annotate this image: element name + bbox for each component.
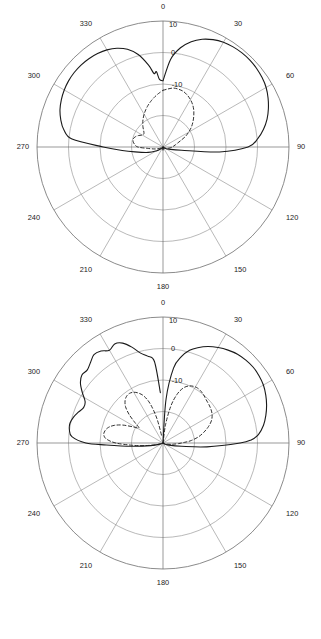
polar-spoke-150: [163, 443, 226, 552]
polar-spoke-150: [163, 147, 226, 256]
angle-label-60: 60: [286, 71, 294, 80]
angle-tick-labels: 0306090120150180210240270300330: [17, 2, 306, 291]
radial-label-10: 10: [169, 316, 177, 325]
polar-plot-a: 0306090120150180210240270300330100-10(a): [0, 0, 321, 300]
angle-label-330: 330: [80, 315, 92, 324]
angle-label-240: 240: [28, 509, 40, 518]
curve-co-polarization: [69, 343, 266, 447]
data-curves: [60, 39, 268, 152]
angle-label-0: 0: [161, 298, 165, 307]
angle-label-150: 150: [234, 561, 246, 570]
angle-label-150: 150: [234, 265, 246, 274]
radial-label--10: -10: [172, 80, 183, 89]
radial-label-0: 0: [171, 344, 175, 353]
polar-spoke-240: [54, 147, 163, 210]
polar-chart-b: 0306090120150180210240270300330100-10(b): [0, 296, 321, 596]
polar-chart-a: 0306090120150180210240270300330100-10(a): [0, 0, 321, 300]
angle-label-30: 30: [234, 19, 242, 28]
angle-label-240: 240: [28, 213, 40, 222]
radial-label-10: 10: [169, 20, 177, 29]
angle-label-30: 30: [234, 315, 242, 324]
angle-label-120: 120: [286, 509, 298, 518]
polar-spoke-210: [100, 443, 163, 552]
angle-label-330: 330: [80, 19, 92, 28]
angle-label-180: 180: [157, 282, 169, 291]
polar-spoke-120: [163, 147, 272, 210]
angle-label-270: 270: [17, 438, 29, 447]
polar-spoke-330: [100, 38, 163, 147]
polar-spoke-210: [100, 147, 163, 256]
polar-spoke-240: [54, 443, 163, 506]
angle-label-180: 180: [157, 578, 169, 587]
polar-radiation-pattern-figure: 0306090120150180210240270300330100-10(a)…: [0, 0, 321, 639]
angle-tick-labels: 0306090120150180210240270300330: [17, 298, 306, 587]
radial-tick-labels: 100-10: [169, 20, 182, 89]
angle-label-90: 90: [297, 142, 305, 151]
polar-spoke-60: [163, 380, 272, 443]
radial-label--10: -10: [172, 376, 183, 385]
curve-cross-polarization: [104, 386, 212, 446]
polar-plot-b: 0306090120150180210240270300330100-10(b): [0, 296, 321, 596]
angle-label-270: 270: [17, 142, 29, 151]
curve-co-polarization: [60, 39, 268, 152]
angle-label-210: 210: [80, 561, 92, 570]
angle-label-300: 300: [28, 367, 40, 376]
angle-label-60: 60: [286, 367, 294, 376]
angle-label-300: 300: [28, 71, 40, 80]
polar-spoke-120: [163, 443, 272, 506]
polar-spoke-60: [163, 84, 272, 147]
curve-cross-polarization: [133, 88, 194, 149]
angle-label-120: 120: [286, 213, 298, 222]
data-curves: [69, 343, 266, 447]
angle-label-210: 210: [80, 265, 92, 274]
angle-label-0: 0: [161, 2, 165, 11]
angle-label-90: 90: [297, 438, 305, 447]
